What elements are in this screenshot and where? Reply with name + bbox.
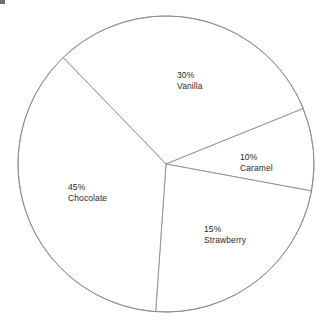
slice-label-chocolate: 45% Chocolate — [68, 182, 107, 204]
slice-percent-vanilla: 30% — [177, 70, 203, 81]
slice-label-strawberry: 15% Strawberry — [204, 224, 246, 246]
slice-percent-strawberry: 15% — [204, 224, 246, 235]
pie-chart-svg — [0, 0, 324, 325]
slice-name-vanilla: Vanilla — [177, 81, 203, 92]
slice-name-chocolate: Chocolate — [68, 193, 107, 204]
slice-name-strawberry: Strawberry — [204, 235, 246, 246]
slice-label-caramel: 10% Caramel — [240, 152, 273, 174]
pie-chart-figure: 30% Vanilla 10% Caramel 15% Strawberry 4… — [0, 0, 324, 325]
slice-percent-chocolate: 45% — [68, 182, 107, 193]
slice-percent-caramel: 10% — [240, 152, 273, 163]
slice-name-caramel: Caramel — [240, 163, 273, 174]
slice-label-vanilla: 30% Vanilla — [177, 70, 203, 92]
